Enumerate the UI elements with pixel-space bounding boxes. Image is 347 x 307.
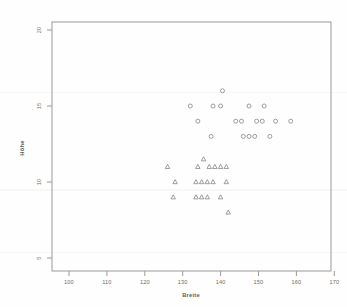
data-point-circle	[241, 134, 245, 138]
y-tick-label: 10	[36, 179, 42, 186]
plot-canvas: 100110120130140150160170 5101520 Breite …	[0, 0, 347, 307]
data-point-circle	[255, 119, 259, 123]
data-point-circle	[253, 134, 257, 138]
data-point-triangle	[226, 210, 230, 214]
data-point-circle	[247, 104, 251, 108]
series-triangles	[165, 157, 230, 214]
x-axis-ticks: 100110120130140150160170	[64, 271, 339, 285]
data-point-circle	[289, 119, 293, 123]
data-point-circle	[268, 134, 272, 138]
x-tick-label: 160	[292, 279, 302, 285]
plot-frame-box	[52, 22, 331, 271]
x-tick-label: 120	[140, 279, 150, 285]
data-point-circle	[211, 104, 215, 108]
x-tick-label: 170	[329, 279, 339, 285]
x-tick-label: 110	[102, 279, 111, 285]
data-point-circle	[209, 134, 213, 138]
data-point-circle	[234, 119, 238, 123]
data-point-triangle	[199, 180, 203, 184]
data-point-triangle	[196, 164, 200, 168]
data-point-circle	[239, 119, 243, 123]
data-point-circle	[247, 134, 251, 138]
data-point-triangle	[211, 180, 215, 184]
data-point-triangle	[224, 180, 228, 184]
y-tick-label: 15	[36, 103, 42, 110]
x-tick-label: 140	[216, 279, 226, 285]
data-point-triangle	[205, 180, 209, 184]
data-point-triangle	[194, 195, 198, 199]
data-point-triangle	[218, 195, 222, 199]
data-point-triangle	[218, 164, 222, 168]
scatter-plot-figure: 100110120130140150160170 5101520 Breite …	[0, 0, 347, 307]
series-circles	[188, 89, 292, 139]
data-point-circle	[219, 104, 223, 108]
data-point-circle	[220, 89, 224, 93]
data-point-circle	[260, 119, 264, 123]
data-point-circle	[188, 104, 192, 108]
data-point-triangle	[207, 164, 211, 168]
y-tick-label: 5	[36, 256, 42, 259]
data-point-triangle	[224, 164, 228, 168]
data-point-triangle	[213, 164, 217, 168]
data-point-circle	[196, 119, 200, 123]
data-point-triangle	[205, 195, 209, 199]
data-point-triangle	[171, 195, 175, 199]
x-axis-title: Breite	[182, 292, 200, 298]
data-point-circle	[262, 104, 266, 108]
y-tick-label: 20	[36, 27, 42, 34]
data-point-triangle	[165, 164, 169, 168]
data-point-triangle	[201, 157, 205, 161]
data-point-triangle	[199, 195, 203, 199]
y-axis-ticks: 5101520	[36, 27, 52, 260]
y-axis-title: Höhe	[19, 140, 25, 156]
data-point-circle	[274, 119, 278, 123]
data-point-triangle	[173, 180, 177, 184]
x-tick-label: 130	[178, 279, 188, 285]
x-tick-label: 100	[64, 279, 74, 285]
x-tick-label: 150	[254, 279, 264, 285]
data-point-triangle	[194, 180, 198, 184]
